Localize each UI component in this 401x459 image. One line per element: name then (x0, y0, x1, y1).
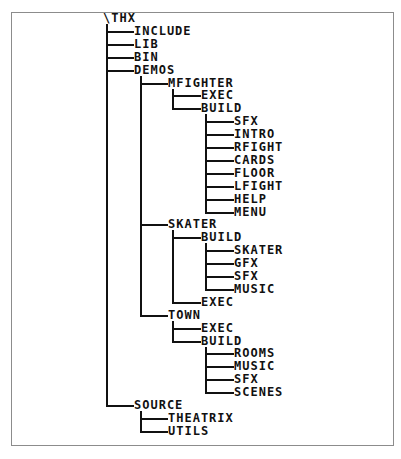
tree-connector-vertical (172, 321, 174, 343)
tree-connector-horizontal (172, 108, 201, 110)
tree-connector-horizontal (205, 276, 234, 278)
tree-connector-horizontal (172, 237, 201, 239)
tree-connector-horizontal (205, 212, 234, 214)
tree-node: THEATRIX (168, 412, 234, 425)
tree-node: EXEC (201, 296, 234, 309)
tree-connector-vertical (140, 76, 142, 317)
tree-connector-horizontal (205, 353, 234, 355)
tree-node: HELP (234, 193, 267, 206)
tree-connector-horizontal (205, 392, 234, 394)
tree-connector-horizontal (140, 224, 168, 226)
tree-connector-horizontal (140, 418, 168, 420)
tree-connector-horizontal (205, 121, 234, 123)
tree-connector-horizontal (172, 302, 201, 304)
tree-connector-horizontal (205, 366, 234, 368)
tree-connector-horizontal (106, 405, 134, 407)
tree-node: SCENES (234, 386, 283, 399)
tree-node: CARDS (234, 154, 275, 167)
tree-connector-horizontal (205, 147, 234, 149)
tree-connector-vertical (205, 347, 207, 395)
tree-node: BIN (134, 51, 159, 64)
tree-connector-horizontal (172, 341, 201, 343)
tree-connector-horizontal (205, 134, 234, 136)
tree-connector-horizontal (140, 315, 168, 317)
tree-connector-horizontal (205, 186, 234, 188)
tree-connector-vertical (172, 230, 174, 303)
tree-node: UTILS (168, 425, 209, 438)
tree-connector-vertical (106, 24, 108, 407)
tree-connector-horizontal (172, 328, 201, 330)
tree-node: INCLUDE (134, 25, 192, 38)
tree-connector-horizontal (106, 44, 134, 46)
tree-connector-horizontal (205, 263, 234, 265)
tree-node: MENU (234, 206, 267, 219)
tree-connector-horizontal (205, 199, 234, 201)
tree-connector-horizontal (106, 70, 134, 72)
tree-connector-horizontal (205, 379, 234, 381)
tree-connector-vertical (205, 243, 207, 291)
tree-connector-horizontal (205, 289, 234, 291)
tree-connector-horizontal (106, 31, 134, 33)
tree-connector-vertical (205, 114, 207, 213)
tree-connector-horizontal (205, 160, 234, 162)
tree-node: EXEC (201, 322, 234, 335)
tree-node: FLOOR (234, 167, 275, 180)
tree-connector-vertical (172, 89, 174, 111)
tree-connector-horizontal (106, 57, 134, 59)
tree-node: LFIGHT (234, 180, 283, 193)
tree-connector-horizontal (172, 95, 201, 97)
tree-connector-horizontal (140, 431, 168, 433)
tree-node: MUSIC (234, 283, 275, 296)
tree-connector-vertical (140, 411, 142, 433)
tree-node: LIB (134, 38, 159, 51)
tree-connector-horizontal (205, 173, 234, 175)
directory-tree: \THXINCLUDELIBBINDEMOSMFIGHTEREXECBUILDS… (0, 0, 401, 459)
tree-connector-horizontal (140, 83, 168, 85)
tree-connector-horizontal (205, 250, 234, 252)
